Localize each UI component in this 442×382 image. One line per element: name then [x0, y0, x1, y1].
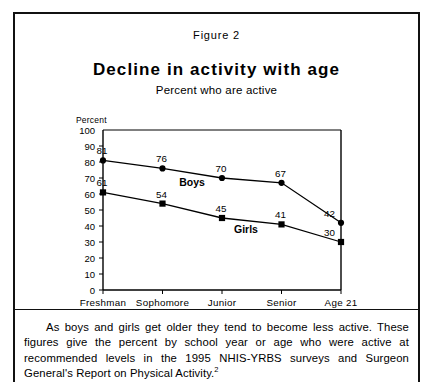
data-point-marker [338, 239, 344, 245]
data-point-marker [278, 180, 284, 186]
line-chart-svg: 1009080706050403020100FreshmanSophomoreJ… [0, 0, 442, 315]
figure-caption: As boys and girls get older they tend to… [24, 320, 409, 381]
data-point-label: 45 [216, 203, 227, 214]
data-point-label: 61 [97, 177, 108, 188]
x-axis-tick-label: Junior [208, 297, 237, 308]
series-label-boys: Boys [179, 176, 205, 188]
y-axis-tick-label: 0 [90, 285, 95, 296]
y-axis-tick-label: 90 [84, 141, 95, 152]
y-axis-tick-label: 20 [84, 253, 95, 264]
x-axis-tick-label: Sophomore [136, 297, 190, 308]
data-point-marker [219, 215, 225, 221]
y-axis-tick-label: 100 [79, 125, 95, 136]
data-point-label: 81 [97, 145, 108, 156]
data-point-marker [100, 157, 106, 163]
series-label-girls: Girls [234, 223, 258, 235]
data-point-marker [338, 220, 344, 226]
data-point-marker [159, 201, 165, 207]
y-axis-tick-label: 80 [84, 157, 95, 168]
data-point-marker [159, 165, 165, 171]
y-axis-tick-label: 70 [84, 173, 95, 184]
data-point-label: 54 [156, 189, 167, 200]
data-point-marker [219, 175, 225, 181]
data-point-label: 30 [324, 227, 335, 238]
x-axis-tick-label: Age 21 [325, 297, 358, 308]
y-axis-tick-label: 50 [84, 205, 95, 216]
data-point-label: 42 [324, 208, 335, 219]
data-point-label: 41 [275, 209, 286, 220]
x-axis-tick-label: Senior [266, 297, 297, 308]
data-point-marker [278, 221, 284, 227]
y-axis-tick-label: 60 [84, 189, 95, 200]
chart-plot-area: Percent 1009080706050403020100FreshmanSo… [0, 0, 442, 315]
data-point-marker [100, 189, 106, 195]
data-point-label: 70 [216, 163, 227, 174]
data-point-label: 67 [275, 168, 286, 179]
figure-page: Figure 2 Decline in activity with age Pe… [0, 0, 442, 382]
data-point-label: 76 [156, 153, 167, 164]
y-axis-tick-label: 40 [84, 221, 95, 232]
y-axis-tick-label: 10 [84, 269, 95, 280]
figure-caption-footnote-marker: 2 [214, 365, 218, 374]
x-axis-tick-label: Freshman [80, 297, 127, 308]
y-axis-tick-label: 30 [84, 237, 95, 248]
